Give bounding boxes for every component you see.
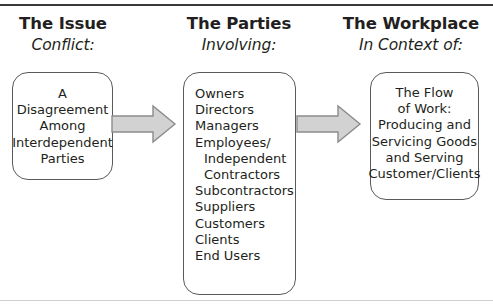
- box-line: Producing and: [369, 117, 481, 133]
- box-issue-content: A Disagreement Among Interdependent Part…: [12, 86, 113, 167]
- column-subheading-parties: Involving:: [159, 36, 319, 54]
- top-rule: [0, 4, 493, 6]
- box-line: Customers: [195, 216, 294, 232]
- box-workplace: The Flow of Work: Producing and Servicin…: [370, 72, 479, 200]
- box-line: Independent: [195, 151, 294, 167]
- box-line: Contractors: [195, 167, 294, 183]
- arrow-parties-to-workplace: [296, 104, 362, 144]
- box-line: A: [12, 86, 113, 102]
- box-line: Subcontractors: [195, 183, 294, 199]
- box-line: and Serving: [369, 150, 481, 166]
- box-line: The Flow: [369, 85, 481, 101]
- box-line: Managers: [195, 118, 294, 134]
- box-line: Directors: [195, 102, 294, 118]
- box-parties: Owners Directors Managers Employees/ Ind…: [183, 72, 296, 295]
- box-line: Employees/: [195, 135, 294, 151]
- box-line: Interdependent: [12, 135, 113, 151]
- column-heading-workplace: The Workplace: [329, 14, 493, 33]
- box-workplace-content: The Flow of Work: Producing and Servicin…: [369, 85, 481, 182]
- box-line: Among: [12, 118, 113, 134]
- box-line: Owners: [195, 86, 294, 102]
- box-line: Parties: [12, 151, 113, 167]
- arrow-issue-to-parties: [111, 104, 177, 144]
- column-heading-parties: The Parties: [159, 14, 319, 33]
- box-line: Suppliers: [195, 199, 294, 215]
- diagram-canvas: The Issue Conflict: A Disagreement Among…: [0, 0, 493, 305]
- box-parties-content: Owners Directors Managers Employees/ Ind…: [195, 86, 294, 264]
- box-issue: A Disagreement Among Interdependent Part…: [12, 72, 113, 180]
- bottom-rule: [0, 300, 493, 301]
- box-line: Clients: [195, 232, 294, 248]
- column-heading-issue: The Issue: [0, 14, 143, 33]
- box-line: Customer/Clients: [369, 166, 481, 182]
- column-subheading-issue: Conflict:: [0, 36, 143, 54]
- box-line: Disagreement: [12, 102, 113, 118]
- box-line: of Work:: [369, 101, 481, 117]
- box-line: Servicing Goods: [369, 134, 481, 150]
- box-line: End Users: [195, 248, 294, 264]
- column-subheading-workplace: In Context of:: [329, 36, 493, 54]
